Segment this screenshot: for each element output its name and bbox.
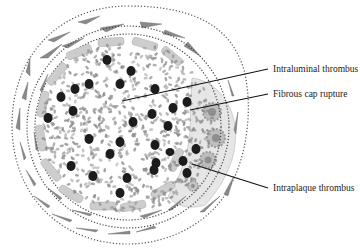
smooth-muscle-cell bbox=[40, 74, 48, 92]
smooth-muscle-cell bbox=[100, 24, 124, 32]
smooth-muscle-cell bbox=[20, 142, 26, 160]
smooth-muscle-cell bbox=[76, 228, 98, 232]
artery-cross-section-diagram bbox=[0, 0, 360, 249]
label-intraluminal-thrombus: Intraluminal thrombus bbox=[273, 64, 358, 74]
smooth-muscle-cell bbox=[16, 108, 20, 130]
smooth-muscle-cell bbox=[78, 16, 100, 24]
smooth-muscle-cell bbox=[140, 210, 162, 218]
smooth-muscle-cell bbox=[40, 44, 62, 58]
label-fibrous-cap-rupture: Fibrous cap rupture bbox=[273, 89, 347, 99]
smooth-muscle-cell bbox=[26, 170, 36, 186]
smooth-muscle-cell bbox=[22, 82, 28, 100]
foam-cell bbox=[207, 129, 225, 147]
smooth-muscle-cell bbox=[224, 176, 234, 196]
smooth-muscle-cell bbox=[228, 80, 234, 96]
smooth-muscle-cell bbox=[140, 22, 162, 28]
label-intraplaque-thrombus: Intraplaque thrombus bbox=[273, 183, 355, 193]
smooth-muscle-cell bbox=[52, 214, 72, 222]
smooth-muscle-cell bbox=[108, 231, 130, 234]
smooth-muscle-cell bbox=[26, 58, 30, 76]
foam-cell bbox=[188, 181, 198, 191]
